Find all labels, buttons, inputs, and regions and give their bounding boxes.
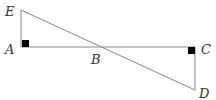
label-c: C xyxy=(201,42,211,57)
label-d: D xyxy=(198,86,210,100)
label-b: B xyxy=(90,52,101,67)
segment-ed xyxy=(21,10,195,90)
geometry-diagram: E A B C D xyxy=(0,0,216,100)
right-angle-marker-c xyxy=(188,47,195,54)
label-e: E xyxy=(4,4,15,19)
label-a: A xyxy=(4,42,14,57)
right-angle-marker-a xyxy=(22,40,29,47)
